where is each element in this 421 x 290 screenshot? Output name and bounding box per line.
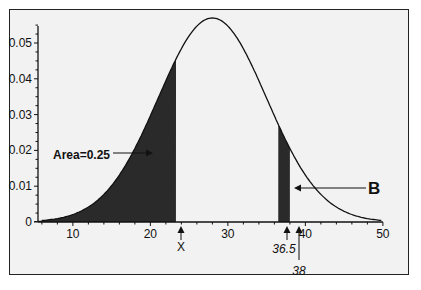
x-tick-label: 30 bbox=[221, 227, 235, 241]
area-annotation-label: Area=0.25 bbox=[53, 148, 110, 162]
shaded-region-1 bbox=[34, 59, 176, 222]
y-tick-label: 0.02 bbox=[9, 143, 33, 157]
marker-36-5: 36.5 bbox=[272, 226, 296, 256]
x-tick-label: 10 bbox=[66, 227, 80, 241]
marker-36-5-arrow-icon bbox=[284, 226, 291, 233]
y-axis-ticks: 00.010.020.030.040.05 bbox=[9, 25, 38, 229]
b-arrowhead-icon bbox=[294, 185, 301, 192]
svg-text:36.5: 36.5 bbox=[272, 242, 296, 256]
x-tick-label: 20 bbox=[144, 227, 158, 241]
y-tick-label: 0.05 bbox=[9, 36, 33, 50]
shaded-regions bbox=[34, 59, 290, 222]
axes bbox=[38, 26, 383, 222]
y-tick-label: 0.03 bbox=[9, 108, 33, 122]
x-axis-ticks: 1020304050 bbox=[42, 222, 390, 241]
y-tick-label: 0 bbox=[25, 215, 32, 229]
y-tick-label: 0.01 bbox=[9, 179, 33, 193]
x-marker-arrow-icon bbox=[178, 226, 185, 233]
shaded-region-2 bbox=[278, 124, 290, 222]
normal-distribution-chart: 00.010.020.030.040.05 1020304050 Area=0.… bbox=[0, 0, 421, 290]
svg-text:38: 38 bbox=[292, 264, 306, 278]
x-tick-label: 40 bbox=[299, 227, 313, 241]
b-annotation-label: B bbox=[368, 179, 380, 198]
y-tick-label: 0.04 bbox=[9, 72, 33, 86]
svg-text:X: X bbox=[177, 240, 185, 254]
density-curve bbox=[42, 18, 381, 221]
x-tick-label: 50 bbox=[376, 227, 390, 241]
x-marker: X bbox=[177, 226, 185, 254]
